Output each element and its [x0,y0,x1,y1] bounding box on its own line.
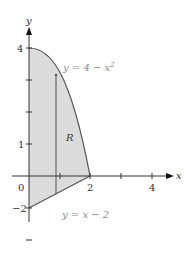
x-tick-label-4: 4 [149,182,155,193]
x-axis-label: x [176,170,182,181]
y-tick-label-4: 4 [17,43,23,54]
x-tick-label-2: 2 [87,182,93,193]
origin-label: 0 [18,182,24,193]
y-tick-label-neg2: −2 [12,203,27,214]
y-axis-label: y [25,15,32,26]
parabola-equation-label: y = 4 − x2 [62,61,115,73]
y-tick-label-1: 1 [18,139,24,150]
y-axis-arrow-icon [26,27,32,35]
x-axis-arrow-icon [166,173,174,179]
region-diagram: y x 0 2 4 4 1 −2 R y = 4 − x2 y = x − 2 [0,0,189,269]
region-label: R [65,132,74,143]
line-equation-label: y = x − 2 [61,209,109,220]
strip-top-point [55,74,58,77]
